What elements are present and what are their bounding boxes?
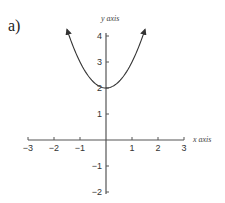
x-axis-label: x axis: [192, 135, 211, 144]
x-tick-label: −2: [49, 143, 59, 153]
y-tick-label: −2: [92, 187, 102, 197]
x-tick-label: 2: [155, 143, 160, 153]
y-axis-label: y axis: [100, 14, 119, 23]
y-tick-label: −1: [92, 161, 102, 171]
parabola-chart: −3−2−11234321−1−2 x axis y axis: [0, 0, 225, 203]
y-tick-label: 4: [97, 31, 102, 41]
y-tick-label: 2: [97, 83, 102, 93]
ticks: −3−2−11234321−1−2: [23, 31, 187, 197]
x-tick-label: −1: [75, 143, 85, 153]
x-tick-label: 3: [181, 143, 186, 153]
x-tick-label: 1: [129, 143, 134, 153]
y-tick-label: 3: [97, 57, 102, 67]
x-tick-label: −3: [23, 143, 33, 153]
y-tick-label: 1: [97, 109, 102, 119]
